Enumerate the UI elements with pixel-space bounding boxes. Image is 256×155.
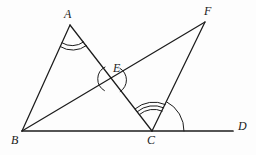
angle-mark-A	[60, 42, 86, 50]
segment-AB	[22, 25, 70, 131]
vertex-label-B: B	[11, 134, 18, 146]
vertex-label-C: C	[147, 134, 155, 146]
segment-BF	[22, 22, 205, 131]
geometry-figure: A B C D E F	[0, 0, 256, 155]
geometry-canvas	[0, 0, 256, 155]
angle-mark-C-outer	[167, 102, 184, 131]
angle-mark-E-left	[98, 67, 105, 91]
vertex-label-F: F	[204, 5, 211, 17]
vertex-label-E: E	[113, 62, 120, 74]
vertex-label-D: D	[238, 120, 247, 132]
vertex-label-A: A	[64, 8, 71, 20]
